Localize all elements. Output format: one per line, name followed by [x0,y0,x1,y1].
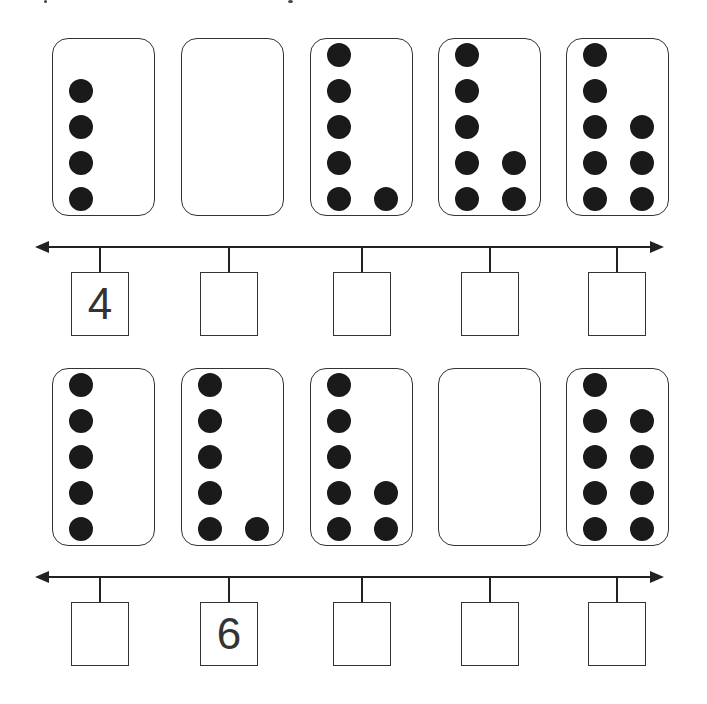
dot [327,481,351,505]
answer-box-1-3[interactable] [333,272,391,336]
tick [361,248,363,272]
dot [583,115,607,139]
dot-card-5 [566,38,669,216]
dot [630,151,654,175]
dot [245,517,269,541]
dot [69,481,93,505]
dot [583,43,607,67]
dot-card-7 [181,368,284,546]
dot [630,481,654,505]
dot [583,373,607,397]
tick [228,248,230,272]
answer-box-1-5[interactable] [588,272,646,336]
dot [69,445,93,469]
answer-box-1-4[interactable] [461,272,519,336]
answer-box-2-1[interactable] [71,602,129,666]
dot-card-3 [310,38,413,216]
dot [455,151,479,175]
dot [630,517,654,541]
dot [630,115,654,139]
dot [69,373,93,397]
dot [374,517,398,541]
answer-box-2-5[interactable] [588,602,646,666]
answer-box-2-3[interactable] [333,602,391,666]
tick [616,578,618,602]
dot [583,187,607,211]
dot [455,43,479,67]
dot [327,517,351,541]
dot-card-9 [438,368,541,546]
dot [455,115,479,139]
dot [455,79,479,103]
dot [374,481,398,505]
answer-box-2-2[interactable]: 6 [200,602,258,666]
dot [198,481,222,505]
dot [502,187,526,211]
cropped-heading-text [288,0,293,3]
dot [583,445,607,469]
dot [374,187,398,211]
dot-card-6 [52,368,155,546]
dot [327,187,351,211]
dot-card-10 [566,368,669,546]
dot [630,187,654,211]
arrow-right-icon [650,571,664,583]
dot [327,409,351,433]
number-line-2 [45,576,655,578]
dot [455,187,479,211]
dot [502,151,526,175]
dot [69,115,93,139]
arrow-right-icon [650,241,664,253]
dot [327,79,351,103]
dot [583,151,607,175]
dot [198,445,222,469]
dot-card-4 [438,38,541,216]
dot [583,409,607,433]
dot [69,187,93,211]
tick [489,578,491,602]
dot-card-1 [52,38,155,216]
dot [69,517,93,541]
tick [616,248,618,272]
dot [583,517,607,541]
dot [327,373,351,397]
dot [630,409,654,433]
answer-box-2-4[interactable] [461,602,519,666]
dot [327,445,351,469]
dot [327,43,351,67]
tick [228,578,230,602]
dot-card-2 [181,38,284,216]
dot [69,409,93,433]
dot [198,409,222,433]
dot [583,79,607,103]
dot [69,79,93,103]
answer-box-1-1[interactable]: 4 [71,272,129,336]
tick [99,578,101,602]
dot [583,481,607,505]
dot-card-8 [310,368,413,546]
dot [327,115,351,139]
tick [361,578,363,602]
dot [69,151,93,175]
number-line-1 [45,246,655,248]
dot [327,151,351,175]
cropped-heading-text [44,0,47,3]
dot [198,517,222,541]
answer-box-1-2[interactable] [200,272,258,336]
dot [198,373,222,397]
dot [630,445,654,469]
tick [99,248,101,272]
tick [489,248,491,272]
